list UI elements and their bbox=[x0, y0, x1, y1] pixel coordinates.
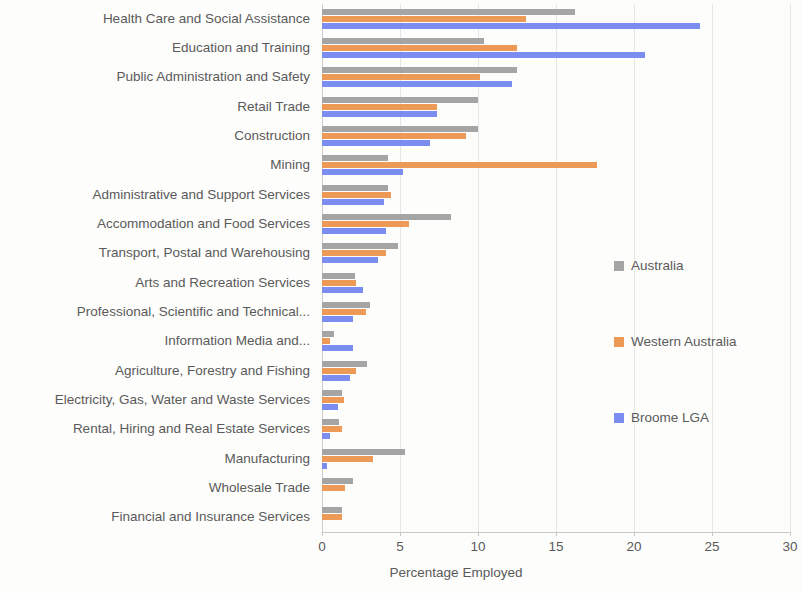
legend-swatch-icon bbox=[614, 261, 624, 271]
bar-broome-lga bbox=[322, 111, 437, 117]
y-axis-label: Transport, Postal and Warehousing bbox=[0, 246, 310, 260]
bar-broome-lga bbox=[322, 52, 645, 58]
x-tick-label-30: 30 bbox=[782, 539, 797, 554]
bar-chart: Health Care and Social AssistanceEducati… bbox=[0, 0, 802, 593]
y-axis-label: Administrative and Support Services bbox=[0, 188, 310, 202]
y-axis-label: Accommodation and Food Services bbox=[0, 217, 310, 231]
bar-australia bbox=[322, 449, 405, 455]
x-tick-mark-20 bbox=[634, 532, 635, 536]
bar-western-australia bbox=[322, 338, 330, 344]
y-axis-label: Education and Training bbox=[0, 41, 310, 55]
y-axis-label: Arts and Recreation Services bbox=[0, 276, 310, 290]
bar-broome-lga bbox=[322, 433, 330, 439]
bar-australia bbox=[322, 507, 342, 513]
bar-broome-lga bbox=[322, 228, 386, 234]
bar-western-australia bbox=[322, 104, 437, 110]
legend-item-western-australia[interactable]: Western Australia bbox=[614, 334, 737, 349]
y-axis-label: Professional, Scientific and Technical..… bbox=[0, 305, 310, 319]
gridline-25 bbox=[712, 4, 713, 532]
y-axis-label: Public Administration and Safety bbox=[0, 70, 310, 84]
x-tick-mark-30 bbox=[790, 532, 791, 536]
bar-western-australia bbox=[322, 280, 356, 286]
bar-broome-lga bbox=[322, 81, 512, 87]
y-axis-label: Information Media and... bbox=[0, 334, 310, 348]
x-tick-mark-25 bbox=[712, 532, 713, 536]
bar-australia bbox=[322, 214, 451, 220]
gridline-30 bbox=[790, 4, 791, 532]
bar-australia bbox=[322, 273, 355, 279]
bar-broome-lga bbox=[322, 375, 350, 381]
bar-western-australia bbox=[322, 456, 373, 462]
x-tick-label-25: 25 bbox=[704, 539, 719, 554]
bar-western-australia bbox=[322, 221, 409, 227]
bar-western-australia bbox=[322, 133, 466, 139]
x-tick-mark-15 bbox=[556, 532, 557, 536]
bar-western-australia bbox=[322, 45, 517, 51]
bar-broome-lga bbox=[322, 169, 403, 175]
bar-australia bbox=[322, 9, 575, 15]
y-axis-label: Retail Trade bbox=[0, 100, 310, 114]
bar-western-australia bbox=[322, 250, 386, 256]
bar-broome-lga bbox=[322, 287, 363, 293]
plot-area bbox=[322, 4, 790, 532]
bar-australia bbox=[322, 126, 478, 132]
bar-broome-lga bbox=[322, 463, 327, 469]
bar-australia bbox=[322, 243, 398, 249]
bar-western-australia bbox=[322, 74, 480, 80]
legend-item-broome-lga[interactable]: Broome LGA bbox=[614, 410, 709, 425]
bar-broome-lga bbox=[322, 345, 353, 351]
legend-item-australia[interactable]: Australia bbox=[614, 258, 684, 273]
legend-label: Broome LGA bbox=[631, 410, 709, 425]
bar-australia bbox=[322, 155, 388, 161]
bar-australia bbox=[322, 390, 342, 396]
x-tick-label-0: 0 bbox=[318, 539, 326, 554]
y-axis-label: Manufacturing bbox=[0, 452, 310, 466]
bar-broome-lga bbox=[322, 404, 338, 410]
bar-western-australia bbox=[322, 162, 597, 168]
y-axis-category-labels: Health Care and Social AssistanceEducati… bbox=[0, 4, 316, 532]
bar-western-australia bbox=[322, 397, 344, 403]
legend-label: Western Australia bbox=[631, 334, 737, 349]
x-tick-mark-5 bbox=[400, 532, 401, 536]
y-axis-label: Rental, Hiring and Real Estate Services bbox=[0, 422, 310, 436]
bar-australia bbox=[322, 97, 478, 103]
x-axis-title: Percentage Employed bbox=[0, 565, 802, 580]
legend-label: Australia bbox=[631, 258, 684, 273]
legend-swatch-icon bbox=[614, 413, 624, 423]
bar-western-australia bbox=[322, 309, 366, 315]
y-axis-label: Agriculture, Forestry and Fishing bbox=[0, 364, 310, 378]
x-tick-mark-0 bbox=[322, 532, 323, 536]
x-tick-label-20: 20 bbox=[626, 539, 641, 554]
y-axis-label: Financial and Insurance Services bbox=[0, 510, 310, 524]
y-axis-label: Mining bbox=[0, 158, 310, 172]
bar-western-australia bbox=[322, 485, 345, 491]
y-axis-label: Electricity, Gas, Water and Waste Servic… bbox=[0, 393, 310, 407]
bar-broome-lga bbox=[322, 140, 430, 146]
bar-western-australia bbox=[322, 426, 342, 432]
x-tick-mark-10 bbox=[478, 532, 479, 536]
bar-western-australia bbox=[322, 16, 526, 22]
bar-australia bbox=[322, 38, 484, 44]
bar-australia bbox=[322, 331, 334, 337]
y-axis-label: Construction bbox=[0, 129, 310, 143]
x-tick-label-10: 10 bbox=[470, 539, 485, 554]
bar-australia bbox=[322, 419, 339, 425]
x-tick-label-5: 5 bbox=[396, 539, 404, 554]
y-axis-label: Wholesale Trade bbox=[0, 481, 310, 495]
bar-broome-lga bbox=[322, 23, 700, 29]
bar-broome-lga bbox=[322, 257, 378, 263]
bar-western-australia bbox=[322, 368, 356, 374]
x-tick-label-15: 15 bbox=[548, 539, 563, 554]
y-axis-label: Health Care and Social Assistance bbox=[0, 12, 310, 26]
bar-australia bbox=[322, 185, 388, 191]
bar-broome-lga bbox=[322, 316, 353, 322]
bar-western-australia bbox=[322, 192, 391, 198]
bar-australia bbox=[322, 67, 517, 73]
legend-swatch-icon bbox=[614, 337, 624, 347]
bar-australia bbox=[322, 361, 367, 367]
bar-western-australia bbox=[322, 514, 342, 520]
gridline-15 bbox=[556, 4, 557, 532]
bar-broome-lga bbox=[322, 199, 384, 205]
bar-australia bbox=[322, 302, 370, 308]
bar-australia bbox=[322, 478, 353, 484]
